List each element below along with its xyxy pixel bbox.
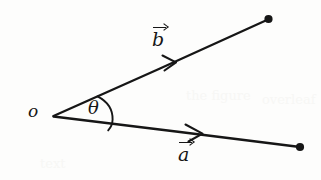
vector-b-arrow-accent-icon <box>152 24 164 31</box>
vector-a-endpoint-dot <box>296 143 304 151</box>
origin-label: o <box>28 103 38 120</box>
vector-b-arrowhead <box>163 56 177 71</box>
vector-angle-figure: the figure overleaf text o θ b a <box>0 0 321 180</box>
vector-a-label: a <box>178 139 189 164</box>
angle-label-theta: θ <box>88 99 99 117</box>
vector-b-endpoint-dot <box>264 15 272 23</box>
vector-a-arrow-accent-icon <box>178 139 189 146</box>
vector-a-shaft <box>54 117 301 148</box>
angle-arc <box>98 96 113 130</box>
vector-b-letter: b <box>152 30 164 49</box>
vector-b-label: b <box>152 24 164 49</box>
vector-a-letter: a <box>178 145 189 164</box>
